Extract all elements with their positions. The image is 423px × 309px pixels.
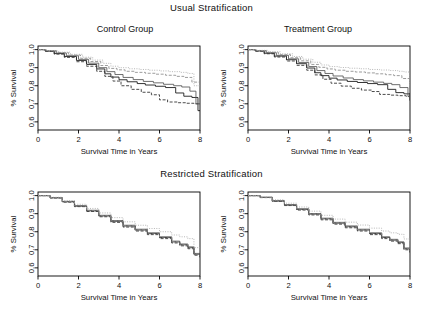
y-axis-title: % Survival [219, 69, 228, 106]
panel-usual-treatment: 024680.60.70.80.91.0Survival Time in Yea… [210, 36, 422, 160]
y-tick-label: 0.8 [27, 226, 36, 237]
x-tick-label: 2 [76, 281, 80, 290]
y-tick-label: 0.8 [27, 80, 36, 91]
y-tick-label: 0.6 [237, 263, 246, 274]
y-tick-label: 0.6 [27, 263, 36, 274]
x-tick-label: 2 [286, 135, 290, 144]
x-tick-label: 4 [327, 281, 331, 290]
plot-frame [38, 192, 200, 276]
x-tick-label: 4 [117, 135, 121, 144]
section-title-usual: Usual Stratification [0, 2, 423, 13]
y-tick-label: 0.8 [237, 80, 246, 91]
y-tick-label: 0.7 [27, 245, 36, 256]
y-tick-label: 1.0 [237, 190, 246, 201]
y-tick-label: 0.9 [27, 62, 36, 73]
x-tick-label: 6 [367, 135, 371, 144]
y-axis-title: % Survival [9, 215, 18, 252]
x-tick-label: 4 [117, 281, 121, 290]
y-tick-label: 0.7 [237, 99, 246, 110]
panel-title-treatment: Treatment Group [233, 24, 403, 34]
y-tick-label: 0.9 [27, 208, 36, 219]
x-tick-label: 0 [246, 135, 250, 144]
figure-root: Usual Stratification Control Group Treat… [0, 0, 423, 309]
panel-restricted-treatment: 024680.60.70.80.91.0Survival Time in Yea… [210, 182, 422, 306]
y-tick-label: 1.0 [27, 44, 36, 55]
y-axis-title: % Survival [219, 215, 228, 252]
panel-usual-control: 024680.60.70.80.91.0Survival Time in Yea… [0, 36, 212, 160]
y-tick-label: 0.8 [237, 226, 246, 237]
x-tick-label: 8 [198, 135, 202, 144]
section-title-restricted: Restricted Stratification [0, 168, 423, 179]
x-tick-label: 2 [76, 135, 80, 144]
y-tick-label: 0.9 [237, 208, 246, 219]
panel-title-control: Control Group [40, 24, 210, 34]
x-tick-label: 0 [36, 135, 40, 144]
y-tick-label: 0.7 [27, 99, 36, 110]
plot-frame [248, 192, 410, 276]
x-tick-label: 8 [408, 135, 412, 144]
y-tick-label: 0.6 [27, 117, 36, 128]
x-tick-label: 6 [157, 281, 161, 290]
y-tick-label: 0.6 [237, 117, 246, 128]
plot-usual-control: 024680.60.70.80.91.0Survival Time in Yea… [0, 36, 212, 160]
x-tick-label: 6 [367, 281, 371, 290]
plot-usual-treatment: 024680.60.70.80.91.0Survival Time in Yea… [210, 36, 422, 160]
y-tick-label: 1.0 [27, 190, 36, 201]
x-axis-title: Survival Time in Years [81, 293, 158, 302]
y-tick-label: 1.0 [237, 44, 246, 55]
x-tick-label: 8 [198, 281, 202, 290]
y-tick-label: 0.9 [237, 62, 246, 73]
x-tick-label: 4 [327, 135, 331, 144]
plot-restricted-control: 024680.60.70.80.91.0Survival Time in Yea… [0, 182, 212, 306]
x-axis-title: Survival Time in Years [291, 293, 368, 302]
x-tick-label: 0 [36, 281, 40, 290]
plot-restricted-treatment: 024680.60.70.80.91.0Survival Time in Yea… [210, 182, 422, 306]
panel-restricted-control: 024680.60.70.80.91.0Survival Time in Yea… [0, 182, 212, 306]
y-tick-label: 0.7 [237, 245, 246, 256]
plot-frame [248, 46, 410, 130]
x-axis-title: Survival Time in Years [81, 147, 158, 156]
x-tick-label: 8 [408, 281, 412, 290]
x-tick-label: 0 [246, 281, 250, 290]
x-tick-label: 6 [157, 135, 161, 144]
y-axis-title: % Survival [9, 69, 18, 106]
x-axis-title: Survival Time in Years [291, 147, 368, 156]
x-tick-label: 2 [286, 281, 290, 290]
